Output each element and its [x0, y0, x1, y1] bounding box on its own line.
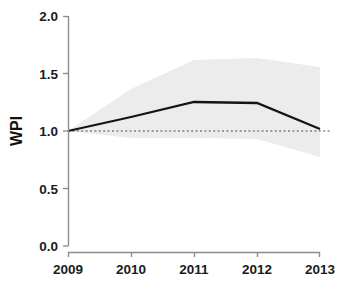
x-tick-label-2011: 2011: [179, 262, 209, 277]
x-tick-label-2010: 2010: [116, 262, 146, 277]
y-tick-label-1-5: 1.5: [39, 67, 58, 82]
y-axis-title: WPI: [8, 116, 25, 146]
x-tick-label-2009: 2009: [53, 262, 83, 277]
x-tick-label-2013: 2013: [305, 262, 336, 277]
chart-figure: 2.0 1.5 1.0 0.5 0.0 2009 2010 2011 2012 …: [0, 0, 346, 285]
y-tick-label-2-0: 2.0: [39, 9, 58, 24]
y-tick-label-0-5: 0.5: [39, 182, 58, 197]
wpi-line-chart: 2.0 1.5 1.0 0.5 0.0 2009 2010 2011 2012 …: [0, 0, 346, 285]
y-tick-label-0-0: 0.0: [39, 239, 58, 254]
y-tick-label-1-0: 1.0: [39, 124, 58, 139]
x-tick-label-2012: 2012: [242, 262, 272, 277]
